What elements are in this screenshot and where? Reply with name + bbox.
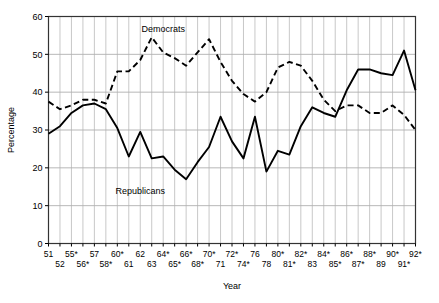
x-tick-label: 80*: [271, 249, 284, 259]
x-tick-label: 82*: [294, 249, 307, 259]
y-axis-title: Percentage: [6, 107, 16, 153]
annotation-republicans: Republicans: [115, 186, 165, 196]
x-tick-label: 81*: [283, 259, 296, 269]
y-tick-label: 40: [32, 87, 42, 97]
x-tick-label: 83: [308, 259, 318, 269]
x-tick-label: 57: [90, 249, 100, 259]
x-tick-label: 85*: [329, 259, 342, 269]
y-tick-label: 50: [32, 50, 42, 60]
x-tick-label: 68*: [191, 259, 204, 269]
x-tick-label: 63: [147, 259, 157, 269]
x-tick-label: 51: [44, 249, 54, 259]
x-tick-label: 92*: [409, 249, 422, 259]
x-axis-title: Year: [223, 281, 241, 291]
x-tick-label: 84*: [317, 249, 330, 259]
y-tick-label: 0: [37, 239, 42, 249]
x-tick-label: 65*: [168, 259, 181, 269]
x-tick-label: 72*: [226, 249, 239, 259]
x-tick-label: 86*: [340, 249, 353, 259]
x-tick-label: 87*: [352, 259, 365, 269]
y-tick-label: 30: [32, 125, 42, 135]
y-tick-label: 20: [32, 163, 42, 173]
x-tick-label: 60*: [111, 249, 124, 259]
x-tick-label: 61: [124, 259, 134, 269]
y-tick-label: 60: [32, 12, 42, 22]
x-tick-label: 76: [250, 249, 260, 259]
x-tick-label: 58*: [99, 259, 112, 269]
chart-root: 0102030405060Percentage515255*56*5758*60…: [0, 0, 439, 303]
x-tick-label: 90*: [386, 249, 399, 259]
x-tick-label: 74*: [237, 259, 250, 269]
x-tick-label: 55*: [65, 249, 78, 259]
y-tick-label: 10: [32, 201, 42, 211]
x-tick-label: 70*: [203, 249, 216, 259]
x-tick-label: 89: [376, 259, 386, 269]
x-tick-label: 71: [216, 259, 226, 269]
x-tick-label: 78: [262, 259, 272, 269]
x-tick-label: 64*: [157, 249, 170, 259]
x-tick-label: 62: [136, 249, 146, 259]
line-chart: 0102030405060Percentage515255*56*5758*60…: [0, 0, 439, 303]
x-tick-label: 91*: [398, 259, 411, 269]
x-tick-label: 56*: [77, 259, 90, 269]
x-tick-label: 52: [55, 259, 65, 269]
annotation-democrats: Democrats: [141, 24, 185, 34]
x-tick-label: 88*: [363, 249, 376, 259]
x-tick-label: 66*: [180, 249, 193, 259]
